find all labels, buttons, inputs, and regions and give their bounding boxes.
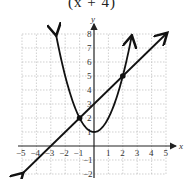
- x-tick-label: −5: [16, 148, 26, 158]
- y-tick-label: 5: [87, 71, 92, 81]
- y-tick-label: 4: [87, 85, 92, 95]
- x-tick-label: 1: [106, 148, 111, 158]
- y-tick-label: 8: [87, 29, 92, 39]
- x-tick-label: 4: [149, 148, 154, 158]
- y-tick-label: 7: [87, 43, 92, 53]
- y-tick-label: 6: [87, 57, 92, 67]
- y-axis-label: y: [90, 14, 95, 24]
- x-tick-label: 2: [120, 148, 125, 158]
- intersection-point: [120, 73, 126, 79]
- x-tick-label: −1: [74, 148, 84, 158]
- y-tick-label: −1: [83, 155, 93, 165]
- x-tick-label: −2: [59, 148, 69, 158]
- x-tick-label: 5: [164, 148, 169, 158]
- y-tick-label: 2: [87, 113, 92, 123]
- graph: xy−5−4−3−2−112345−2−112345678: [0, 0, 184, 179]
- x-axis-label: x: [178, 141, 183, 151]
- intersection-point: [77, 115, 83, 121]
- x-tick-label: 3: [135, 148, 140, 158]
- y-tick-label: −2: [83, 169, 93, 179]
